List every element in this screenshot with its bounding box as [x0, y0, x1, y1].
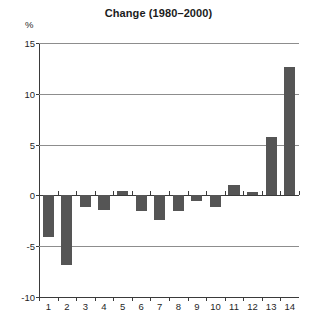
- x-tick-label: 10: [210, 301, 221, 312]
- bar: [284, 67, 295, 195]
- x-tick-label: 3: [83, 301, 88, 312]
- x-tick-mark: [225, 191, 226, 195]
- bar: [43, 195, 54, 237]
- gridline-15: 15: [39, 43, 299, 44]
- bar: [98, 195, 109, 209]
- x-tick-mark: [76, 191, 77, 195]
- x-axis-tick-mark: [58, 297, 59, 301]
- x-tick-label: 2: [64, 301, 69, 312]
- y-tick-label: 10: [24, 89, 35, 100]
- x-tick-mark: [58, 191, 59, 195]
- x-tick-label: 14: [284, 301, 295, 312]
- bar: [228, 185, 239, 195]
- bar: [191, 195, 202, 201]
- x-tick-mark: [299, 191, 300, 195]
- x-tick-mark: [280, 191, 281, 195]
- x-tick-label: 8: [176, 301, 181, 312]
- plot-area: 151050-5-10 1234567891011121314: [39, 43, 299, 297]
- x-tick-label: 11: [229, 301, 239, 312]
- x-tick-mark: [169, 191, 170, 195]
- x-axis-tick-mark: [169, 297, 170, 301]
- y-tick-mark: [36, 94, 39, 95]
- x-axis-tick-mark: [113, 297, 114, 301]
- x-tick-label: 1: [46, 301, 51, 312]
- x-tick-label: 13: [266, 301, 277, 312]
- y-tick-mark: [36, 246, 39, 247]
- x-tick-label: 5: [120, 301, 125, 312]
- bar: [210, 195, 221, 206]
- x-tick-mark: [206, 191, 207, 195]
- bar: [154, 195, 165, 219]
- bar: [136, 195, 147, 210]
- x-tick-mark: [243, 191, 244, 195]
- x-tick-label: 6: [138, 301, 143, 312]
- x-tick-mark: [132, 191, 133, 195]
- x-tick-label: 12: [247, 301, 258, 312]
- x-axis-tick-mark: [188, 297, 189, 301]
- y-tick-label: 0: [30, 190, 35, 201]
- x-tick-mark: [95, 191, 96, 195]
- bar: [61, 195, 72, 265]
- x-tick-label: 7: [157, 301, 162, 312]
- y-tick-label: -5: [27, 241, 35, 252]
- bar: [173, 195, 184, 210]
- x-tick-mark: [150, 191, 151, 195]
- x-tick-mark: [39, 191, 40, 195]
- x-tick-mark: [262, 191, 263, 195]
- y-axis-line: [39, 43, 40, 297]
- x-tick-mark: [113, 191, 114, 195]
- y-tick-label: -10: [21, 292, 35, 303]
- y-tick-mark: [36, 43, 39, 44]
- bar: [247, 192, 258, 195]
- gridline-10: 10: [39, 94, 299, 95]
- x-axis-tick-mark: [262, 297, 263, 301]
- x-tick-label: 9: [194, 301, 199, 312]
- x-tick-mark: [188, 191, 189, 195]
- gridline--5: -5: [39, 246, 299, 247]
- x-axis-tick-mark: [206, 297, 207, 301]
- x-tick-label: 4: [101, 301, 106, 312]
- bar: [266, 137, 277, 195]
- x-axis-tick-mark: [225, 297, 226, 301]
- chart-title: Change (1980–2000): [0, 7, 317, 19]
- bar: [80, 195, 91, 206]
- bar-chart: Change (1980–2000) % 151050-5-10 1234567…: [0, 0, 317, 332]
- bar: [117, 191, 128, 195]
- y-tick-label: 15: [24, 38, 35, 49]
- gridline-5: 5: [39, 145, 299, 146]
- y-tick-label: 5: [30, 140, 35, 151]
- x-axis-tick-mark: [243, 297, 244, 301]
- y-axis-unit-label: %: [25, 19, 33, 30]
- x-axis-tick-mark: [95, 297, 96, 301]
- x-axis-tick-mark: [76, 297, 77, 301]
- y-tick-mark: [36, 145, 39, 146]
- x-axis-tick-mark: [150, 297, 151, 301]
- x-axis-tick-mark: [132, 297, 133, 301]
- x-axis-tick-mark: [280, 297, 281, 301]
- x-axis-tick-mark: [39, 297, 40, 301]
